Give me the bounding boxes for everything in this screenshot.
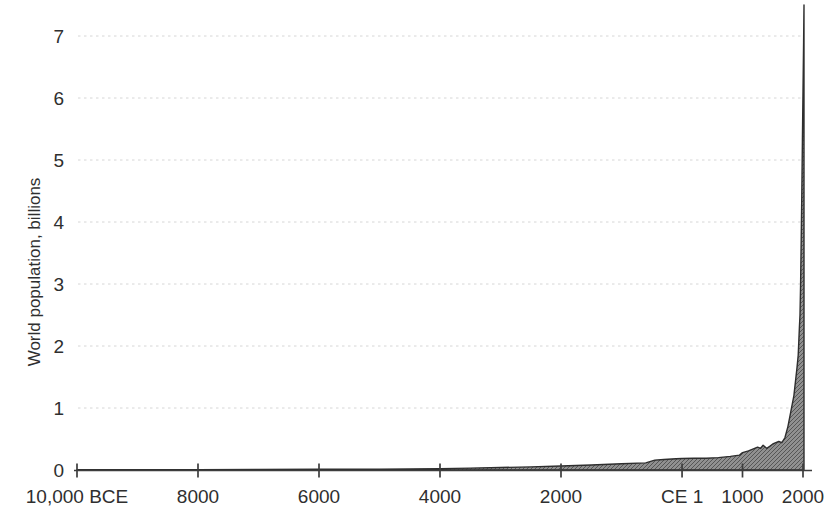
x-tick-label: 2000 [782,486,824,507]
gridlines [78,36,804,408]
population-area-series [77,5,804,470]
y-tick-label: 7 [53,26,64,47]
x-tick-label: 2000 [540,486,582,507]
x-tick-label: 1000 [721,486,763,507]
y-tick-label: 1 [53,398,64,419]
x-tick-label: 6000 [298,486,340,507]
y-tick-label: 4 [53,212,64,233]
x-tick-label: 4000 [419,486,461,507]
y-tick-label: 5 [53,150,64,171]
world-population-chart-page: 10,000 BCE8000600040002000CE 110002000 0… [0,0,827,525]
y-tick-labels: 01234567 [53,26,64,481]
x-tick-label: 8000 [177,486,219,507]
y-tick-label: 6 [53,88,64,109]
area-path [77,5,804,470]
x-tick-labels: 10,000 BCE8000600040002000CE 110002000 [26,486,824,507]
y-axis-title: World population, billions [25,178,44,367]
y-tick-label: 3 [53,274,64,295]
world-population-area-chart: 10,000 BCE8000600040002000CE 110002000 0… [0,0,827,525]
y-tick-label: 2 [53,336,64,357]
y-tick-label: 0 [53,460,64,481]
x-tick-label: 10,000 BCE [26,486,128,507]
x-tick-label: CE 1 [661,486,703,507]
